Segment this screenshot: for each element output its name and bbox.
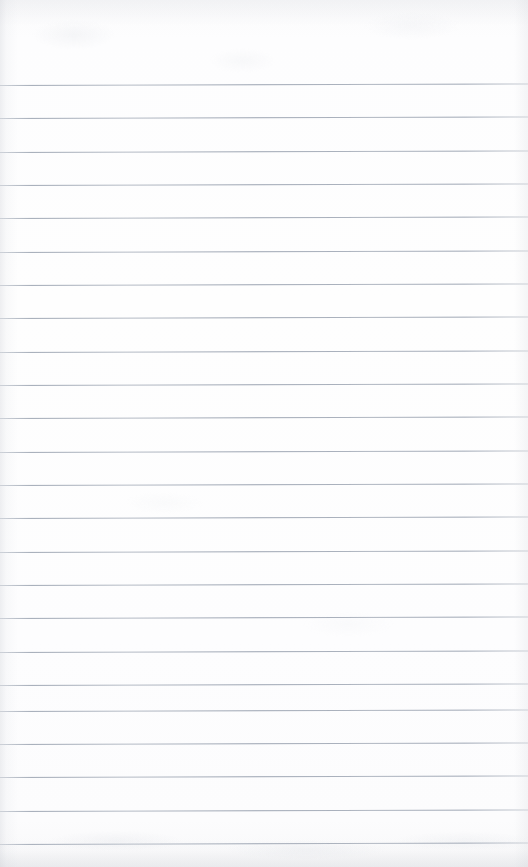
rule-line	[0, 583, 528, 586]
rule-line	[0, 683, 528, 686]
rule-line	[0, 842, 528, 845]
rule-line	[0, 809, 528, 812]
rule-line	[0, 742, 528, 745]
rule-line	[0, 216, 528, 219]
rule-line	[0, 250, 528, 253]
rule-line	[0, 483, 528, 486]
rule-line	[0, 616, 528, 619]
rule-line	[0, 183, 528, 186]
rule-line	[0, 550, 528, 553]
rule-line	[0, 83, 528, 86]
rule-line	[0, 383, 528, 386]
rule-line	[0, 316, 528, 319]
rule-line	[0, 416, 528, 419]
rule-line	[0, 650, 528, 653]
rule-line	[0, 450, 528, 453]
rule-line	[0, 709, 528, 712]
rule-line	[0, 775, 528, 778]
rule-line	[0, 350, 528, 353]
rule-line	[0, 116, 528, 119]
rule-line	[0, 516, 528, 519]
scanned-page	[0, 0, 528, 867]
rule-line	[0, 283, 528, 286]
rule-line	[0, 150, 528, 153]
ruled-lines-layer	[0, 0, 528, 867]
